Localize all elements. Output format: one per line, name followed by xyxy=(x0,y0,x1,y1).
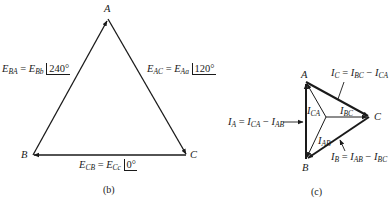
vertex-b-label: B xyxy=(21,150,27,161)
caption-c: (c) xyxy=(311,187,322,197)
subscript: CB xyxy=(85,163,95,172)
vertex-c-label: C xyxy=(190,150,197,161)
equals: = xyxy=(236,116,247,127)
subscript: CA xyxy=(311,109,321,118)
subscript: BC xyxy=(344,109,354,118)
caption-b: (b) xyxy=(103,185,115,195)
label-iab: IAB xyxy=(318,136,331,148)
subscript: CA xyxy=(251,120,261,129)
equals: = xyxy=(163,63,174,74)
subscript: BC xyxy=(378,155,388,164)
label-ica: ICA xyxy=(307,106,320,118)
vertex-a-label: A xyxy=(104,4,110,15)
equals: = xyxy=(340,67,351,78)
label-eba: EBA = EBb 240° xyxy=(2,64,70,76)
vertex-c-label-c: C xyxy=(374,112,381,123)
equals: = xyxy=(339,151,350,162)
label-ibc: IBC xyxy=(340,106,353,118)
subscript: Aa xyxy=(181,67,189,76)
subscript: Bb xyxy=(35,67,43,76)
phasor-eac xyxy=(108,19,186,154)
subscript: AB xyxy=(322,139,331,148)
label-ia: IA = ICA − IAB xyxy=(228,117,284,129)
subscript: AB xyxy=(275,120,284,129)
label-eac: EAC = EAa 120° xyxy=(147,64,216,76)
pointer-ic xyxy=(338,82,344,99)
angle-0: 0° xyxy=(124,159,137,171)
vertex-b-label-c: B xyxy=(302,163,308,174)
subscript: AB xyxy=(354,155,363,164)
equals: = xyxy=(95,159,106,170)
diagram-canvas xyxy=(0,0,392,199)
label-ib: IB = IAB − IBC xyxy=(331,152,387,164)
equals: = xyxy=(18,63,29,74)
minus: − xyxy=(260,116,271,127)
label-ecb: ECB = ECc 0° xyxy=(79,160,137,172)
subscript: Cc xyxy=(113,163,121,172)
subscript: BA xyxy=(8,67,17,76)
phasor-eba xyxy=(33,21,107,155)
subscript: CA xyxy=(378,71,388,80)
angle-240: 240° xyxy=(46,63,70,75)
pointer-ib xyxy=(340,140,345,151)
label-ic: IC = IBC − ICA xyxy=(331,68,388,80)
vertex-a-label-c: A xyxy=(301,70,307,81)
angle-120: 120° xyxy=(192,63,216,75)
subscript: BC xyxy=(354,71,364,80)
subscript: AC xyxy=(153,67,163,76)
minus: − xyxy=(363,151,374,162)
minus: − xyxy=(364,67,375,78)
voltage-triangle xyxy=(33,19,186,155)
